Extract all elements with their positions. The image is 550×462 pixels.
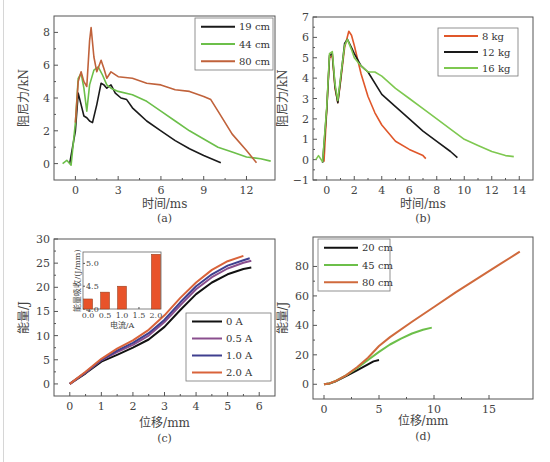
y-axis-label: 能量/J [276,301,290,334]
legend-entry: 1.0 A [226,350,253,361]
x-tick-label: 0 [323,184,330,197]
inset-bar [151,254,160,309]
y-tick-label: 0 [302,378,309,391]
chart-panel-a: 03691202468时间/ms阻尼力/kN(a)19 cm44 cm80 cm [17,16,275,225]
legend-entry: 19 cm [239,21,271,32]
x-axis-label: 时间/ms [142,197,188,211]
x-tick-label: 6 [256,400,263,413]
x-tick-label: 1 [98,400,105,413]
x-tick-label: 12 [485,184,499,197]
legend: 20 cm45 cm80 cm [318,239,394,291]
legend-entry: 80 cm [362,277,394,288]
y-tick-label: 0 [43,158,50,171]
x-tick-label: 5 [376,403,383,416]
x-tick-label: 3 [115,184,122,197]
y-tick-label: 2 [302,113,309,126]
x-tick-label: 8 [433,184,440,197]
legend-entry: 0 A [226,316,244,327]
x-tick-label: 3 [161,400,168,413]
y-tick-label: 5 [43,354,50,367]
inset-y-tick-label: 5.0 [86,259,99,268]
y-tick-label: 2 [43,125,50,138]
x-axis-label: 位移/mm [139,415,190,430]
y-axis-label: 能量/J [17,301,31,334]
x-tick-label: 5 [224,400,231,413]
y-tick-label: 8 [43,26,50,39]
x-tick-label: 2 [129,400,136,413]
inset-bar [84,299,93,309]
legend-entry: 12 kg [482,47,511,58]
inset-chart: 0.00.51.01.52.04.04.55.0电流/A能量吸收/(J/mm) [72,249,162,330]
y-tick-label: 4 [302,72,309,85]
legend-entry: 44 cm [239,39,271,50]
y-tick-label: 0 [302,154,309,167]
y-tick-label: 7 [302,11,309,24]
panel-caption: (d) [415,430,431,443]
legend: 0 A0.5 A1.0 A2.0 A [186,313,271,381]
y-tick-label: 5 [302,52,309,65]
inset-x-tick-label: 1.5 [133,311,146,320]
x-tick-label: 6 [406,184,413,197]
y-tick-label: 4 [43,92,50,105]
y-tick-label: 6 [302,31,309,44]
legend: 19 cm44 cm80 cm [195,18,273,70]
x-tick-label: 12 [239,184,253,197]
legend-entry: 8 kg [482,31,505,42]
x-tick-label: 15 [482,403,496,416]
y-tick-label: 40 [295,319,309,332]
legend-entry: 0.5 A [226,333,253,344]
x-tick-label: 2 [351,184,358,197]
x-tick-label: 0 [321,403,328,416]
y-tick-label: 60 [295,290,309,303]
inset-bar [118,286,127,309]
chart-panel-c: 0123456051015202530位移/mm能量/J(c)0 A0.5 A1… [17,233,275,445]
x-axis-label: 时间/ms [400,197,446,211]
panel-caption: (c) [157,432,172,445]
legend: 8 kg12 kg16 kg [438,28,518,76]
x-tick-label: 14 [512,184,526,197]
y-tick-label: 1 [302,133,309,146]
x-tick-label: 4 [378,184,385,197]
y-tick-label: 20 [295,349,309,362]
inset-bar [101,292,110,309]
y-tick-label: 25 [36,257,50,270]
x-tick-label: 4 [193,400,200,413]
y-tick-label: 80 [295,260,309,273]
legend-entry: 45 cm [362,260,394,271]
inset-y-label: 能量吸收/(J/mm) [72,249,82,311]
y-tick-label: −1 [293,174,309,187]
legend-entry: 80 cm [239,56,271,67]
inset-x-tick-label: 1.0 [116,311,129,320]
x-tick-label: 0 [66,400,73,413]
series-line-45-cm [324,328,432,385]
y-tick-label: 10 [36,330,50,343]
figure-canvas: 03691202468时间/ms阻尼力/kN(a)19 cm44 cm80 cm… [0,0,550,462]
chart-panel-b: 02468101214−101234567时间/ms阻尼力/kN(b)8 kg1… [276,11,533,225]
x-tick-label: 9 [200,184,207,197]
y-tick-label: 6 [43,59,50,72]
y-tick-label: 0 [43,378,50,391]
x-tick-label: 10 [457,184,471,197]
x-axis-label: 位移/mm [398,413,449,428]
x-tick-label: 0 [72,184,79,197]
legend-entry: 20 cm [362,242,394,253]
panel-caption: (a) [157,212,172,225]
inset-x-tick-label: 2.0 [150,311,163,320]
chart-panel-d: 051015020406080位移/mm能量/J(d)20 cm45 cm80 … [276,237,533,443]
y-axis-label: 阻尼力/kN [276,70,290,128]
y-tick-label: 3 [302,93,309,106]
inset-x-tick-label: 0.5 [99,311,112,320]
y-axis-label: 阻尼力/kN [17,69,31,127]
legend-entry: 2.0 A [226,367,253,378]
panel-caption: (b) [415,212,431,225]
x-tick-label: 6 [157,184,164,197]
y-tick-label: 20 [36,281,50,294]
inset-y-tick-label: 4.5 [86,282,99,291]
y-tick-label: 15 [36,305,50,318]
legend-entry: 16 kg [482,63,511,74]
inset-x-label: 电流/A [110,320,135,330]
y-tick-label: 30 [36,233,50,246]
